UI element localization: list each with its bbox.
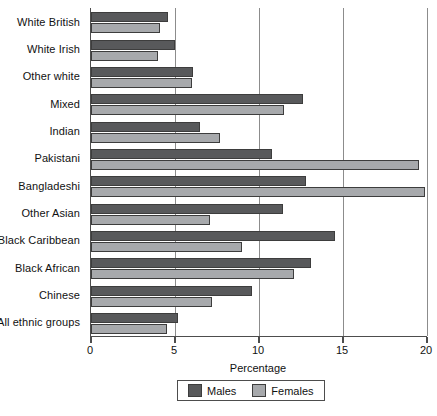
bar-males <box>91 122 200 132</box>
bar-group <box>91 309 427 336</box>
bar-females <box>91 78 192 88</box>
x-tick-label: 10 <box>252 344 264 356</box>
bar-group <box>91 172 427 199</box>
x-tick <box>174 337 176 343</box>
bar-group <box>91 199 427 226</box>
bar-females <box>91 242 242 252</box>
category-label: Other Asian <box>0 199 86 226</box>
category-label: Pakistani <box>0 145 86 172</box>
bars-container <box>91 8 427 336</box>
category-label: Mixed <box>0 90 86 117</box>
category-label: Indian <box>0 117 86 144</box>
legend-swatch-icon <box>188 384 202 397</box>
x-tick-label: 20 <box>420 344 432 356</box>
x-tick-label: 0 <box>87 344 93 356</box>
bar-group <box>91 35 427 62</box>
bar-group <box>91 281 427 308</box>
bar-males <box>91 40 175 50</box>
category-label: White Irish <box>0 35 86 62</box>
bar-group <box>91 227 427 254</box>
bar-group <box>91 254 427 281</box>
bar-females <box>91 133 220 143</box>
bar-females <box>91 160 419 170</box>
bar-group <box>91 8 427 35</box>
bar-females <box>91 187 425 197</box>
bar-males <box>91 286 252 296</box>
x-axis-title: Percentage <box>90 362 426 374</box>
bar-chart: White BritishWhite IrishOther whiteMixed… <box>0 0 437 416</box>
x-tick-label: 15 <box>336 344 348 356</box>
bar-males <box>91 313 178 323</box>
x-tick <box>90 337 92 343</box>
bar-males <box>91 12 168 22</box>
legend-swatch-icon <box>252 384 266 397</box>
category-axis: White BritishWhite IrishOther whiteMixed… <box>0 8 86 336</box>
bar-males <box>91 149 272 159</box>
bar-group <box>91 63 427 90</box>
bar-females <box>91 51 158 61</box>
category-label: Chinese <box>0 281 86 308</box>
x-axis-ticks <box>90 337 426 343</box>
bar-females <box>91 297 212 307</box>
legend-label: Males <box>207 385 236 397</box>
legend-item: Females <box>252 384 313 397</box>
bar-females <box>91 215 210 225</box>
x-tick-label: 5 <box>171 344 177 356</box>
bar-females <box>91 105 284 115</box>
bar-females <box>91 324 167 334</box>
gridline <box>427 8 428 336</box>
x-tick <box>426 337 428 343</box>
category-label: All ethnic groups <box>0 309 86 336</box>
plot-area <box>90 8 427 337</box>
x-axis-tick-labels: 05101520 <box>0 344 437 360</box>
bar-males <box>91 204 283 214</box>
category-label: Black Caribbean <box>0 227 86 254</box>
category-label: Black African <box>0 254 86 281</box>
bar-group <box>91 90 427 117</box>
legend-item: Males <box>188 384 236 397</box>
legend-label: Females <box>271 385 313 397</box>
bar-males <box>91 258 311 268</box>
bar-females <box>91 269 294 279</box>
chart-legend: MalesFemales <box>177 380 325 401</box>
x-tick <box>342 337 344 343</box>
category-label: White British <box>0 8 86 35</box>
category-label: Other white <box>0 63 86 90</box>
x-tick <box>258 337 260 343</box>
bar-group <box>91 117 427 144</box>
category-label: Bangladeshi <box>0 172 86 199</box>
bar-males <box>91 94 303 104</box>
bar-males <box>91 231 335 241</box>
bar-males <box>91 67 193 77</box>
bar-group <box>91 145 427 172</box>
bar-males <box>91 176 306 186</box>
bar-females <box>91 23 160 33</box>
